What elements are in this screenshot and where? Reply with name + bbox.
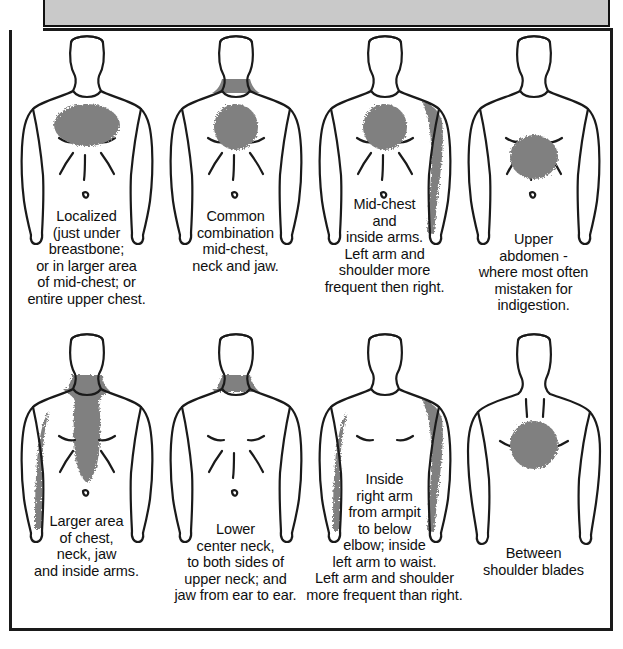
caption-line: to below	[288, 521, 481, 538]
figure-cell-8: Between shoulder blades	[459, 331, 608, 629]
figure-8-caption: Between shoulder blades	[437, 545, 623, 578]
shaded-region-neck	[212, 79, 260, 93]
caption-line: abdomen -	[437, 248, 623, 265]
figure-cell-7: Inside right arm from armpit to below el…	[310, 331, 459, 629]
figure-row-top: Localized (just under breastbone; or in …	[12, 33, 610, 331]
caption-line: right arm	[288, 488, 481, 505]
figure-grid: Localized (just under breastbone; or in …	[12, 33, 610, 629]
shaded-region-abdomen	[510, 135, 558, 179]
caption-line: Between	[437, 545, 623, 562]
figure-4-caption: Upper abdomen - where most often mistake…	[437, 231, 623, 314]
caption-line: shoulder blades	[437, 562, 623, 579]
header-bar	[43, 0, 610, 27]
figure-8-body	[460, 333, 608, 548]
caption-line: Upper	[437, 231, 623, 248]
shaded-region-back	[510, 421, 558, 469]
shaded-region	[54, 104, 120, 146]
caption-line: and	[288, 213, 481, 230]
shaded-region-chest	[363, 104, 407, 150]
figure-row-bottom: Larger area of chest, neck, jaw and insi…	[12, 331, 610, 629]
caption-line: from armpit	[288, 504, 481, 521]
figure-4-body	[460, 35, 608, 250]
caption-line: where most often	[437, 264, 623, 281]
caption-line: Inside	[288, 471, 481, 488]
shaded-region-chest	[214, 104, 258, 150]
caption-line: entire upper chest.	[0, 291, 183, 308]
caption-line: mistaken for	[437, 281, 623, 298]
figure-cell-1: Localized (just under breastbone; or in …	[12, 33, 161, 331]
figure-cell-4: Upper abdomen - where most often mistake…	[459, 33, 608, 331]
caption-line: Mid-chest	[288, 196, 481, 213]
illustration-page: Localized (just under breastbone; or in …	[0, 0, 623, 649]
caption-line: more frequent than right.	[288, 587, 481, 604]
figure-7-caption: Inside right arm from armpit to below el…	[288, 471, 481, 603]
caption-line: indigestion.	[437, 297, 623, 314]
caption-line: of mid-chest; or	[0, 274, 183, 291]
